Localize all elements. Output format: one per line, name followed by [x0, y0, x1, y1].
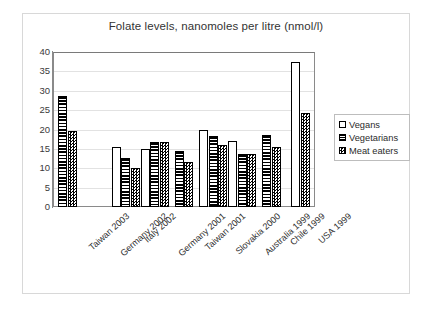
- chart-legend: VegansVegetariansMeat eaters: [334, 114, 410, 161]
- square-checkered-icon: [339, 147, 346, 154]
- legend-item: Meat eaters: [339, 144, 406, 157]
- legend-item-label: Meat eaters: [349, 146, 398, 156]
- legend-item: Vegetarians: [339, 131, 406, 144]
- legend-item-label: Vegetarians: [349, 133, 398, 143]
- chart-screenshot: Folate levels, nanomoles per litre (nmol…: [0, 0, 432, 312]
- square-striped-icon: [339, 134, 346, 141]
- legend-item-label: Vegans: [349, 120, 380, 130]
- square-empty-icon: [339, 121, 346, 128]
- legend-item: Vegans: [339, 118, 406, 131]
